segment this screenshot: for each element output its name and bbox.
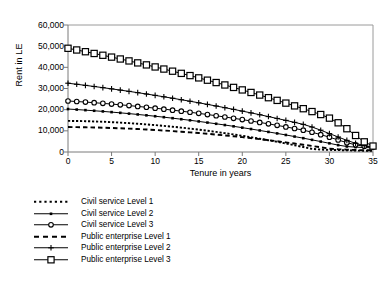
marker-square: [91, 50, 97, 56]
legend-item[interactable]: Civil service Level 1: [30, 196, 330, 208]
marker-circle: [144, 105, 149, 110]
legend-item[interactable]: Public enterprise Level 2: [30, 242, 330, 254]
marker-small-square: [285, 134, 288, 137]
large-square-line-key: [30, 254, 76, 266]
marker-small-square: [154, 115, 157, 118]
marker-small-square: [50, 212, 53, 215]
legend-item[interactable]: Civil service Level 3: [30, 219, 330, 231]
marker-circle: [301, 128, 306, 133]
legend-item[interactable]: Public enterprise Level 1: [30, 231, 330, 243]
marker-small-square: [197, 120, 200, 123]
dashed-line-key: [30, 231, 76, 243]
marker-plus: [274, 116, 280, 122]
marker-plus: [135, 90, 141, 96]
marker-circle: [318, 132, 323, 137]
series-civil-service-level-2: [67, 108, 375, 149]
marker-plus: [292, 120, 298, 126]
marker-circle: [188, 110, 193, 115]
legend-item-label: Civil service Level 1: [76, 196, 153, 208]
marker-square: [222, 82, 228, 88]
marker-square: [361, 139, 367, 145]
marker-circle: [109, 102, 114, 107]
legend-item-label: Public enterprise Level 2: [76, 242, 171, 254]
marker-plus: [318, 127, 324, 133]
marker-circle: [66, 99, 71, 104]
marker-circle: [240, 117, 245, 122]
marker-square: [257, 92, 263, 98]
marker-plus: [170, 95, 176, 101]
marker-circle: [292, 126, 297, 131]
legend-item-label: Civil service Level 3: [76, 219, 153, 231]
marker-square: [74, 47, 80, 53]
marker-square: [169, 68, 175, 74]
plus-line-key: [30, 242, 76, 254]
legend-item[interactable]: Civil service Level 2: [30, 208, 330, 220]
marker-small-square: [189, 119, 192, 122]
marker-plus: [126, 89, 132, 95]
marker-small-square: [250, 128, 253, 131]
x-axis-title: Tenure in years: [68, 168, 373, 178]
marker-square: [265, 95, 271, 101]
marker-plus: [152, 93, 158, 99]
data-series-layer: [65, 45, 376, 151]
marker-small-square: [206, 121, 209, 124]
marker-plus: [239, 108, 245, 114]
marker-plus: [109, 86, 115, 92]
marker-plus: [266, 114, 272, 120]
marker-square: [274, 97, 280, 103]
marker-circle: [49, 223, 54, 228]
legend-item-label: Public enterprise Level 3: [76, 254, 171, 266]
chart-legend: Civil service Level 1Civil service Level…: [30, 196, 330, 266]
marker-circle: [214, 113, 219, 118]
marker-circle: [249, 119, 254, 124]
marker-circle: [266, 122, 271, 127]
marker-square: [82, 49, 88, 55]
chart-plot-area: Rent in LE 010,00020,00030,00040,00050,0…: [0, 0, 384, 185]
marker-small-square: [328, 142, 331, 145]
marker-small-square: [224, 124, 227, 127]
marker-square: [283, 100, 289, 106]
marker-square: [108, 54, 114, 60]
marker-small-square: [128, 112, 131, 115]
marker-circle: [196, 111, 201, 116]
marker-square: [196, 75, 202, 81]
marker-circle: [92, 100, 97, 105]
marker-small-square: [241, 126, 244, 129]
marker-small-square: [293, 135, 296, 138]
marker-small-square: [267, 131, 270, 134]
marker-small-square: [180, 118, 183, 121]
marker-circle: [127, 103, 132, 108]
marker-small-square: [102, 110, 105, 113]
marker-plus: [257, 112, 263, 118]
marker-square: [239, 87, 245, 93]
marker-square: [65, 45, 71, 51]
marker-small-square: [110, 111, 113, 114]
marker-plus: [187, 98, 193, 104]
marker-square: [318, 111, 324, 117]
dotted-line-key: [30, 196, 76, 208]
marker-circle: [257, 120, 262, 125]
marker-small-square: [171, 117, 174, 120]
marker-small-square: [75, 108, 78, 111]
marker-square: [135, 60, 141, 66]
marker-circle: [223, 115, 228, 120]
marker-circle: [162, 107, 167, 112]
marker-square: [335, 120, 341, 126]
marker-circle: [74, 99, 79, 104]
marker-plus: [196, 100, 202, 106]
marker-small-square: [258, 129, 261, 132]
marker-square: [100, 52, 106, 58]
marker-square: [117, 56, 123, 62]
marker-plus: [91, 84, 97, 90]
marker-circle: [275, 123, 280, 128]
marker-plus: [83, 83, 89, 89]
marker-square: [326, 115, 332, 121]
marker-circle: [135, 104, 140, 109]
legend-item-label: Public enterprise Level 1: [76, 231, 171, 243]
legend-item[interactable]: Public enterprise Level 3: [30, 254, 330, 266]
marker-plus: [144, 91, 150, 97]
marker-small-square: [136, 113, 139, 116]
figure-root: Rent in LE 010,00020,00030,00040,00050,0…: [0, 0, 384, 282]
marker-circle: [205, 112, 210, 117]
marker-square: [126, 58, 132, 64]
